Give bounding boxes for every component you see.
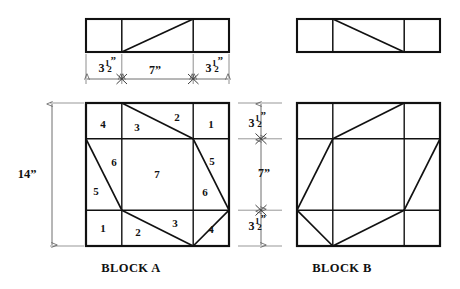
dim-label-overall-height: 14” — [18, 168, 37, 181]
fraction-half: 012” — [105, 63, 110, 74]
piece-number: 2 — [174, 112, 180, 123]
block-b-title: BLOCK B — [312, 262, 371, 275]
overall-height-dimension — [50, 103, 84, 246]
fraction-half: 012” — [212, 63, 217, 74]
block-a-top-strip — [86, 19, 229, 52]
piece-number: 3 — [172, 218, 178, 229]
piece-number: 6 — [111, 157, 117, 168]
dim-label-v-bottom: 3012” — [249, 220, 260, 233]
piece-number: 2 — [135, 227, 141, 238]
dim-label-h-center: 7” — [149, 64, 161, 76]
dim-label-v-top: 3012” — [249, 117, 260, 130]
block-b-top-strip — [297, 19, 440, 52]
block-b-square — [297, 103, 440, 246]
block-a-title: BLOCK A — [101, 262, 160, 275]
piece-number: 4 — [208, 224, 214, 235]
piece-number-center: 7 — [154, 169, 160, 180]
piece-number: 5 — [209, 156, 215, 167]
piece-number: 5 — [93, 186, 99, 197]
quilt-block-diagram: 3012” 7” 3012” 14” 3012” 7” 3012” 4 3 2 … — [0, 0, 460, 289]
fraction-half: 012” — [255, 118, 260, 129]
dim-label-v-center: 7” — [258, 167, 270, 179]
dim-label-h-right: 3012” — [206, 62, 217, 75]
piece-number: 4 — [100, 119, 106, 130]
piece-number: 6 — [202, 187, 208, 198]
fraction-half: 012” — [255, 221, 260, 232]
piece-number: 1 — [208, 119, 214, 130]
diagram-linework — [0, 0, 460, 289]
piece-number: 1 — [100, 223, 106, 234]
dim-label-h-left: 3012” — [99, 62, 110, 75]
piece-number: 3 — [134, 122, 140, 133]
